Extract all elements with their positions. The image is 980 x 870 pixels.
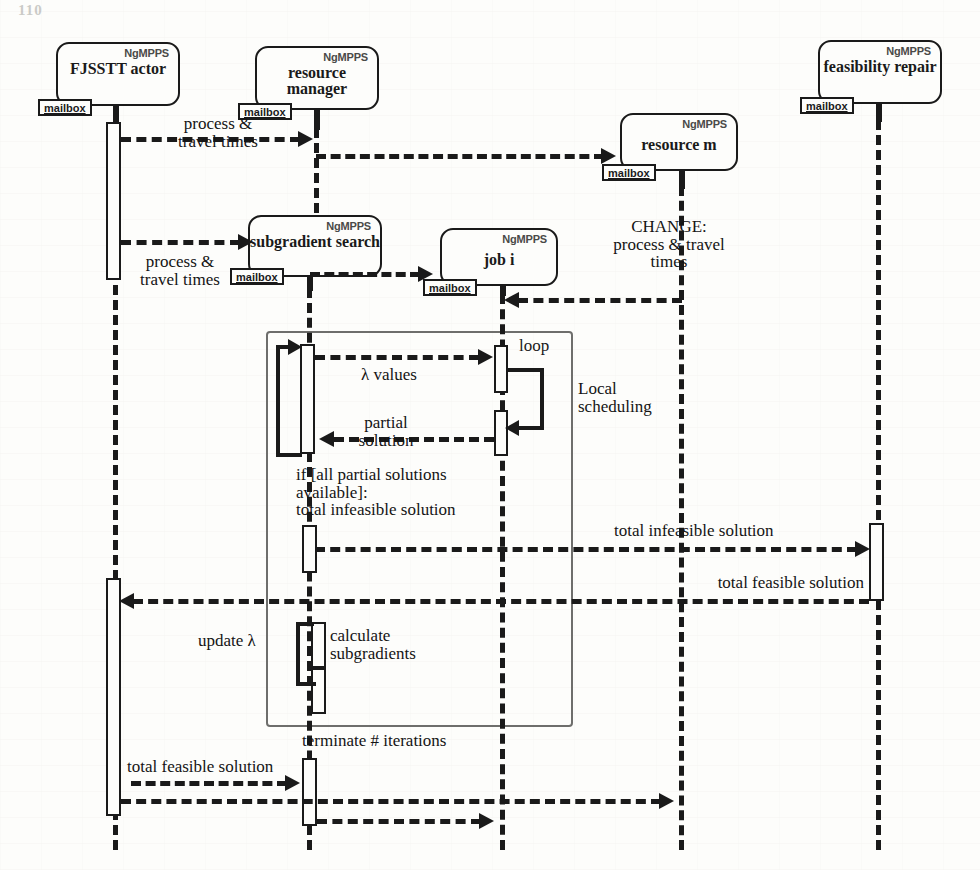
mailbox-resource-m[interactable]: mailbox — [602, 164, 656, 181]
lifeline-head-job-i[interactable]: NgMPPS job i — [440, 228, 558, 286]
message-line-subgradient-to-resourcem-bottom — [317, 819, 481, 824]
message-line-process-travel-2 — [121, 240, 240, 245]
lifeline-dash-feasibility-repair — [876, 120, 881, 850]
message-label-total-feasible-solution-right: total feasible solution — [614, 574, 864, 592]
message-label-process-travel-2: process & travel times — [110, 253, 250, 288]
arrowhead-process-travel-2 — [238, 234, 253, 250]
message-label-partial-solution: partial solution — [326, 414, 446, 449]
arrowhead-subgradient-to-jobi — [418, 266, 433, 282]
self-message-side-local-scheduling — [540, 368, 544, 430]
message-label-change-process-travel: CHANGE: process & travel times — [578, 218, 760, 271]
message-label-total-infeasible-solution: total infeasible solution — [614, 522, 864, 540]
lifeline-head-resource-manager[interactable]: NgMPPS resource manager — [255, 46, 379, 110]
message-line-fjsstt-to-resourcem-bottom — [121, 799, 661, 804]
lifeline-stub-fjsstt — [113, 104, 119, 122]
message-line-total-feasible-solution-right — [133, 599, 869, 604]
self-message-top-local-scheduling — [506, 368, 544, 372]
page-folio: 110 — [18, 2, 43, 19]
message-label-lambda-values: λ values — [361, 366, 501, 384]
arrowhead-fjsstt-to-resourcem-bottom — [659, 793, 674, 809]
message-line-subgradient-to-jobi — [310, 272, 420, 277]
message-label-calculate-subgradients: calculate subgradients — [330, 627, 500, 662]
message-label-process-travel-1: process & travel times — [148, 115, 288, 150]
arrowhead-total-infeasible-solution — [855, 541, 870, 557]
activation-fjsstt-lower — [106, 578, 121, 816]
lifeline-name-resource-m: resource m — [622, 137, 736, 153]
self-call-top-update-lambda — [296, 622, 314, 626]
stereotype-label: NgMPPS — [682, 118, 727, 130]
message-label-total-feasible-solution-bottom: total feasible solution — [127, 758, 377, 776]
arrowhead-process-travel-1 — [298, 131, 313, 147]
lifeline-head-resource-m[interactable]: NgMPPS resource m — [620, 113, 738, 171]
lifeline-stub-resource-manager — [314, 108, 320, 130]
lifeline-name-resource-manager: resource manager — [257, 65, 377, 98]
lifeline-head-feasibility-repair[interactable]: NgMPPS feasibility repair — [818, 40, 942, 104]
message-label-terminate-iterations: terminate # iterations — [302, 732, 552, 750]
arrowhead-total-feasible-solution-bottom — [285, 775, 300, 791]
message-label-update-lambda: update λ — [198, 632, 298, 650]
lifeline-name-subgradient-search: subgradient search — [250, 234, 380, 250]
lifeline-stub-resource-m — [679, 169, 685, 189]
self-call-side-subgradient-loop — [276, 345, 280, 457]
arrowhead-total-feasible-solution-right — [119, 593, 134, 609]
self-call-bottom-subgradient-loop — [276, 453, 302, 457]
arrowhead-change-process-travel — [504, 292, 519, 308]
self-call-bottom-update-lambda — [296, 682, 316, 686]
lifeline-dash-resource-manager — [314, 128, 319, 213]
stereotype-label: NgMPPS — [326, 220, 371, 232]
message-line-total-infeasible-solution — [315, 547, 857, 552]
lifeline-name-job-i: job i — [442, 252, 556, 268]
arrowhead-resmanager-to-resourcem — [601, 148, 616, 164]
stereotype-label: NgMPPS — [502, 233, 547, 245]
stereotype-label: NgMPPS — [124, 47, 169, 59]
message-label-local-scheduling: Local scheduling — [578, 380, 698, 415]
lifeline-dash-resource-m — [679, 186, 684, 850]
sequence-diagram-canvas: 110 NgMPPS FJSSTT actor mailbox NgMPPS r… — [0, 0, 980, 870]
arrowhead-local-scheduling — [505, 420, 519, 436]
mailbox-feasibility-repair[interactable]: mailbox — [800, 97, 854, 114]
stereotype-label: NgMPPS — [323, 51, 368, 63]
arrowhead-subgradient-loop-entry — [288, 339, 302, 355]
lifeline-head-fjsstt[interactable]: NgMPPS FJSSTT actor — [56, 42, 180, 106]
activation-subgradient-calculate — [311, 622, 326, 668]
message-line-resmanager-to-resourcem — [316, 154, 604, 159]
stereotype-label: NgMPPS — [886, 45, 931, 57]
message-line-lambda-values — [315, 355, 479, 360]
activation-feasibility-repair — [869, 523, 884, 601]
lifeline-name-fjsstt: FJSSTT actor — [58, 61, 178, 77]
activation-subgradient-loop — [300, 344, 315, 454]
lifeline-name-feasibility-repair: feasibility repair — [820, 59, 940, 75]
message-line-total-feasible-solution-bottom — [131, 781, 287, 786]
arrowhead-lambda-values — [478, 349, 493, 365]
arrowhead-subgradient-to-resourcem-bottom — [479, 813, 494, 829]
lifeline-stub-feasibility-repair — [876, 102, 882, 122]
mailbox-fjsstt[interactable]: mailbox — [38, 99, 92, 116]
message-line-change-process-travel — [518, 298, 682, 303]
fragment-label-loop: loop — [519, 336, 549, 356]
message-label-if-condition: if [all partial solutions available]: to… — [296, 466, 596, 519]
activation-subgradient-calculate-2 — [311, 668, 326, 714]
